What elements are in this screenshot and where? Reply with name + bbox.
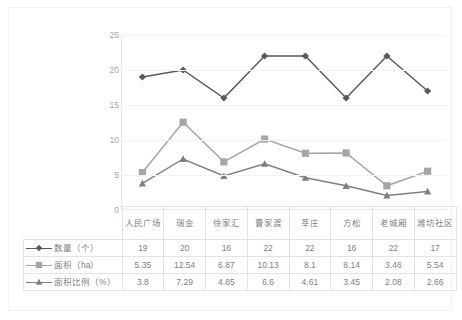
- y-axis-tick-label: 15: [97, 101, 119, 110]
- gridline: [122, 175, 447, 176]
- data-point-marker: [139, 73, 146, 80]
- data-point-marker: [220, 158, 227, 165]
- data-value-cell: 4.61: [289, 274, 331, 291]
- category-label-text: 人民广场: [123, 218, 164, 229]
- legend-entry-1: 数量（个）: [24, 240, 123, 257]
- category-label-text: 瑞金: [164, 218, 205, 229]
- data-value-cell: 2.66: [414, 274, 456, 291]
- data-value-cell: 22: [289, 240, 331, 257]
- series-line: [142, 159, 427, 195]
- gridline: [122, 140, 447, 141]
- data-point-marker: [343, 149, 350, 156]
- data-value-cell: 4.85: [206, 274, 248, 291]
- data-value-cell: 20: [164, 240, 206, 257]
- data-point-marker: [261, 160, 268, 167]
- category-label-4: 曹家渡: [247, 207, 289, 240]
- data-value-cell: 22: [247, 240, 289, 257]
- data-point-marker: [180, 119, 187, 126]
- y-axis-tick-label: 10: [97, 136, 119, 145]
- category-label-text: 老城厢: [373, 218, 414, 229]
- chart-data-table: 人民广场瑞金徐家汇曹家渡莘庄方松老城厢潍坊社区数量（个）192016222216…: [23, 206, 457, 291]
- data-value-cell: 3.45: [331, 274, 373, 291]
- legend-marker-diamond-icon: [26, 243, 52, 253]
- category-label-6: 方松: [331, 207, 373, 240]
- data-point-marker: [302, 150, 309, 157]
- series-3: [139, 155, 431, 198]
- data-value-cell: 16: [206, 240, 248, 257]
- data-value-cell: 5.35: [122, 257, 164, 274]
- category-label-text: 曹家渡: [248, 218, 289, 229]
- legend-marker-triangle-icon: [26, 277, 52, 287]
- data-value-cell: 16: [331, 240, 373, 257]
- plot-region: 0510152025: [9, 8, 453, 213]
- data-value-cell: 19: [122, 240, 164, 257]
- category-label-5: 莘庄: [289, 207, 331, 240]
- table-series-row: 数量（个）1920162222162217: [24, 240, 457, 257]
- legend-marker-square-icon: [26, 260, 52, 270]
- legend-entry-3: 面积比例（%）: [24, 274, 123, 291]
- category-label-8: 潍坊社区: [414, 207, 456, 240]
- table-series-row: 面积（ha）5.3512.546.8710.138.18.143.465.54: [24, 257, 457, 274]
- data-value-cell: 2.08: [373, 274, 415, 291]
- legend-entry-label: 面积（ha）: [54, 260, 99, 270]
- data-value-cell: 6.87: [206, 257, 248, 274]
- data-value-cell: 3.8: [122, 274, 164, 291]
- data-point-marker: [139, 180, 146, 187]
- gridline: [122, 105, 447, 106]
- y-axis-tick-label: 20: [97, 66, 119, 75]
- table-series-row: 面积比例（%）3.87.294.856.64.613.452.082.66: [24, 274, 457, 291]
- data-point-marker: [383, 182, 390, 189]
- data-value-cell: 7.29: [164, 274, 206, 291]
- category-label-7: 老城厢: [373, 207, 415, 240]
- legend-entry-label: 数量（个）: [54, 243, 99, 253]
- y-axis: 0510152025: [97, 31, 119, 210]
- table-corner-cell: [24, 207, 123, 240]
- y-axis-tick-label: 25: [97, 31, 119, 40]
- data-value-cell: 5.54: [414, 257, 456, 274]
- series-2: [139, 119, 431, 190]
- data-value-cell: 8.14: [331, 257, 373, 274]
- series-1: [139, 52, 431, 101]
- category-label-text: 徐家汇: [206, 218, 247, 229]
- category-label-text: 方松: [331, 218, 372, 229]
- category-label-text: 莘庄: [290, 218, 331, 229]
- data-value-cell: 8.1: [289, 257, 331, 274]
- series-line: [142, 122, 427, 186]
- data-point-marker: [180, 155, 187, 162]
- table-category-row: 人民广场瑞金徐家汇曹家渡莘庄方松老城厢潍坊社区: [24, 207, 457, 240]
- gridline: [122, 70, 447, 71]
- series-canvas: [122, 35, 448, 210]
- data-value-cell: 12.54: [164, 257, 206, 274]
- data-point-marker: [424, 168, 431, 175]
- chart-frame: 0510152025 人民广场瑞金徐家汇曹家渡莘庄方松老城厢潍坊社区数量（个）1…: [8, 7, 452, 311]
- category-label-2: 瑞金: [164, 207, 206, 240]
- category-label-1: 人民广场: [122, 207, 164, 240]
- legend-entry-2: 面积（ha）: [24, 257, 123, 274]
- category-label-text: 潍坊社区: [415, 218, 456, 229]
- data-value-cell: 17: [414, 240, 456, 257]
- data-value-cell: 22: [373, 240, 415, 257]
- y-axis-tick-label: 5: [97, 171, 119, 180]
- gridline: [122, 35, 447, 36]
- data-value-cell: 10.13: [247, 257, 289, 274]
- data-value-cell: 6.6: [247, 274, 289, 291]
- legend-entry-label: 面积比例（%）: [54, 277, 116, 287]
- category-label-3: 徐家汇: [206, 207, 248, 240]
- plot-area: [121, 35, 447, 210]
- data-value-cell: 3.46: [373, 257, 415, 274]
- series-line: [142, 56, 427, 98]
